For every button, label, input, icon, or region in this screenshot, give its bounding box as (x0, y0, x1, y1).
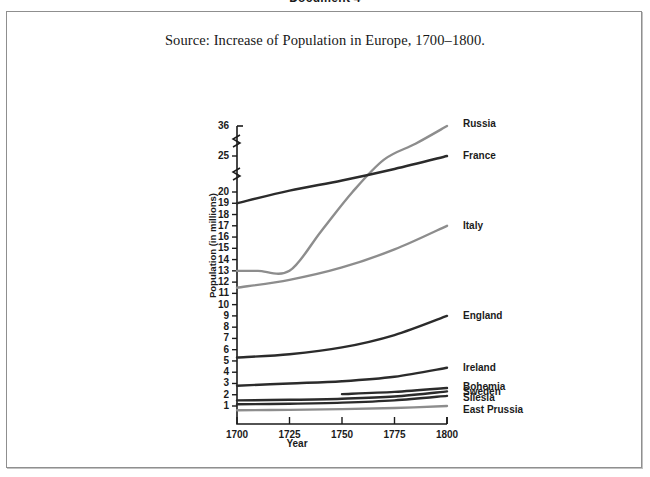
series-label-east-prussia: East Prussia (463, 405, 523, 415)
y-tick-16: 16 (205, 232, 229, 242)
y-tick-18: 18 (205, 210, 229, 220)
y-tick-13: 13 (205, 266, 229, 276)
series-label-russia: Russia (463, 119, 496, 129)
chart-caption: Source: Increase of Population in Europe… (7, 32, 643, 49)
y-tick-4: 4 (205, 367, 229, 377)
x-tick-1700: 1700 (217, 430, 257, 440)
y-tick-36: 36 (205, 121, 229, 131)
y-tick-15: 15 (205, 243, 229, 253)
y-tick-2: 2 (205, 390, 229, 400)
series-label-ireland: Ireland (463, 363, 496, 373)
series-label-england: England (463, 311, 502, 321)
y-tick-17: 17 (205, 221, 229, 231)
y-tick-20: 20 (205, 187, 229, 197)
x-tick-1750: 1750 (322, 430, 362, 440)
y-tick-3: 3 (205, 378, 229, 388)
y-tick-9: 9 (205, 311, 229, 321)
y-tick-8: 8 (205, 322, 229, 332)
y-tick-12: 12 (205, 277, 229, 287)
x-tick-1800: 1800 (427, 430, 467, 440)
population-line-chart: Population (in millions) Year 1234567891… (185, 64, 515, 454)
y-tick-25: 25 (205, 151, 229, 161)
document-heading: Document 4 (0, 0, 650, 5)
series-label-silesia: Silesia (463, 393, 495, 403)
y-tick-10: 10 (205, 300, 229, 310)
y-tick-7: 7 (205, 333, 229, 343)
y-tick-11: 11 (205, 288, 229, 298)
y-tick-6: 6 (205, 345, 229, 355)
screenshot-root: Document 4 Source: Increase of Populatio… (0, 0, 650, 477)
x-tick-1725: 1725 (270, 430, 310, 440)
y-tick-19: 19 (205, 198, 229, 208)
x-tick-1775: 1775 (375, 430, 415, 440)
y-tick-1: 1 (205, 401, 229, 411)
document-frame: Source: Increase of Population in Europe… (6, 11, 642, 468)
y-tick-5: 5 (205, 356, 229, 366)
series-label-italy: Italy (463, 221, 483, 231)
y-tick-14: 14 (205, 255, 229, 265)
series-label-france: France (463, 151, 496, 161)
